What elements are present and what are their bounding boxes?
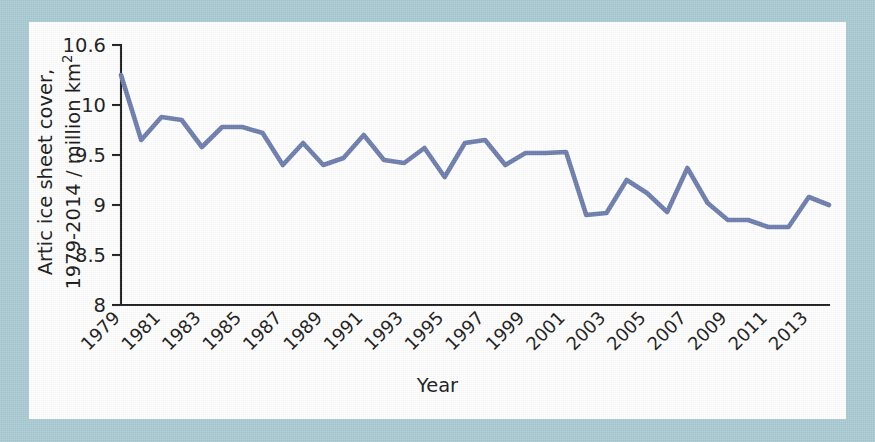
x-axis-tick-label: 1995 bbox=[400, 307, 447, 354]
x-axis-tick-label: 2001 bbox=[522, 307, 569, 354]
figure-panel: 10.6109.598.58 1979198119831985198719891… bbox=[29, 22, 846, 419]
y-axis-ticks bbox=[112, 45, 121, 305]
x-axis-tick-label: 2007 bbox=[643, 307, 690, 354]
x-axis-tick-labels: 1979198119831985198719891991199319951997… bbox=[77, 307, 812, 354]
y-axis-tick-labels: 10.6109.598.58 bbox=[63, 34, 106, 317]
axes-group: 10.6109.598.58 1979198119831985198719891… bbox=[63, 34, 829, 355]
x-axis-tick-label: 2005 bbox=[603, 307, 650, 354]
y-axis-tick-label: 8.5 bbox=[75, 244, 106, 267]
x-axis-tick-label: 1999 bbox=[481, 307, 528, 354]
x-axis-tick-label: 1983 bbox=[157, 307, 204, 354]
x-axis-tick-label: 1997 bbox=[441, 307, 488, 354]
x-axis-tick-label: 1987 bbox=[238, 307, 285, 354]
y-axis-title: Artic ice sheet cover, 1979-2014 / milli… bbox=[25, 0, 135, 22]
y-axis-tick-label: 10 bbox=[81, 94, 106, 117]
x-axis-tick-label: 2011 bbox=[724, 307, 771, 354]
y-axis-tick-label: 10.6 bbox=[63, 34, 106, 57]
x-axis-tick-label: 1991 bbox=[319, 307, 366, 354]
x-axis-tick-label: 2009 bbox=[683, 307, 730, 354]
line-chart-svg: 10.6109.598.58 1979198119831985198719891… bbox=[29, 22, 846, 419]
x-axis-tick-label: 1989 bbox=[279, 307, 326, 354]
x-axis-tick-label: 1993 bbox=[360, 307, 407, 354]
x-axis-tick-label: 1985 bbox=[198, 307, 245, 354]
y-axis-tick-label: 9.5 bbox=[75, 144, 106, 167]
data-series-line bbox=[121, 75, 829, 227]
x-axis-tick-label: 1981 bbox=[117, 307, 164, 354]
x-axis-tick-label: 2013 bbox=[764, 307, 811, 354]
chart-plot-area: 10.6109.598.58 1979198119831985198719891… bbox=[29, 22, 846, 419]
y-axis-tick-label: 9 bbox=[94, 194, 106, 217]
x-axis-title: Year bbox=[29, 374, 846, 397]
x-axis-tick-label: 2003 bbox=[562, 307, 609, 354]
